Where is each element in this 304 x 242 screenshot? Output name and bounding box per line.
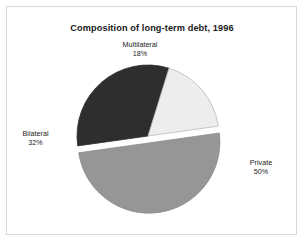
slice-label-private: Private 50% [231,159,291,176]
slice-label-bilateral: Bilateral 32% [0,130,71,147]
slice-label-bilateral-value: 32% [0,139,71,148]
pie-chart-figure: Composition of long-term debt, 1996 Mult… [0,0,304,242]
slice-label-multilateral-value: 18% [90,50,190,59]
pie-svg [0,0,304,242]
pie-slice-group [77,65,220,213]
slice-label-private-value: 50% [231,168,291,177]
slice-label-multilateral: Multilateral 18% [90,41,190,58]
pie-slice-private [79,133,220,213]
